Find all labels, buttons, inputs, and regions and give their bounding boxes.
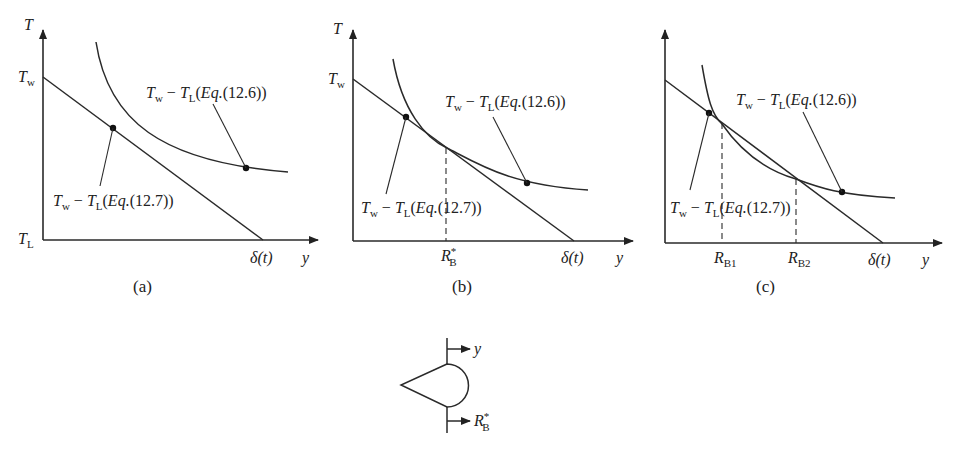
x-axis-label: y (300, 249, 310, 267)
nonlinear-profile-curve (702, 65, 895, 198)
delta-label: δ(t) (250, 249, 273, 267)
line-label: Tw − TL(Eq.(12.7)) (361, 199, 482, 219)
panel-b: T Tw δ(t) y R*B Tw − TL(Eq.(12.6)) Tw − … (328, 20, 633, 296)
bubble-y-label: y (472, 340, 482, 358)
figure-canvas: T Tw TL δ(t) y Tw − TL(Eq.(12.6)) Tw − T… (0, 0, 958, 459)
line-leader (690, 113, 709, 190)
line-leader (386, 117, 406, 194)
caption-c: (c) (756, 277, 775, 296)
x-axis-label: y (920, 251, 930, 269)
y-axis-label: T (24, 16, 34, 33)
caption-a: (a) (133, 277, 152, 296)
x-axis-label: y (614, 249, 624, 267)
curve-label: Tw − TL(Eq.(12.6)) (445, 93, 566, 113)
nonlinear-profile-curve (96, 42, 288, 172)
bubble-shape (401, 364, 469, 407)
delta-label: δ(t) (561, 249, 584, 267)
y-axis-label: T (333, 20, 343, 37)
line-leader (100, 128, 113, 186)
curve-label: Tw − TL(Eq.(12.6)) (146, 84, 267, 104)
linear-profile-line (43, 77, 263, 240)
caption-b: (b) (452, 277, 472, 296)
rb-star-label: R*B (440, 245, 457, 268)
tw-label: Tw (18, 68, 35, 88)
tl-label: TL (18, 230, 34, 250)
panel-a: T Tw TL δ(t) y Tw − TL(Eq.(12.6)) Tw − T… (18, 16, 318, 296)
tw-label: Tw (328, 70, 345, 90)
rb1-label: RB1 (713, 249, 737, 269)
curve-leader (213, 104, 246, 168)
panel-c: δ(t) y RB1 RB2 Tw − TL(Eq.(12.6)) Tw − T… (665, 30, 942, 296)
curve-label: Tw − TL(Eq.(12.6)) (736, 91, 857, 111)
line-label: Tw − TL(Eq.(12.7)) (53, 192, 174, 212)
rb2-label: RB2 (787, 249, 811, 269)
line-label: Tw − TL(Eq.(12.7)) (670, 199, 791, 219)
delta-label: δ(t) (868, 251, 891, 269)
bubble-sketch: y R*B (401, 338, 490, 433)
nonlinear-profile-curve (393, 59, 588, 190)
curve-leader (803, 112, 842, 192)
bubble-rb-label: R*B (473, 410, 490, 433)
